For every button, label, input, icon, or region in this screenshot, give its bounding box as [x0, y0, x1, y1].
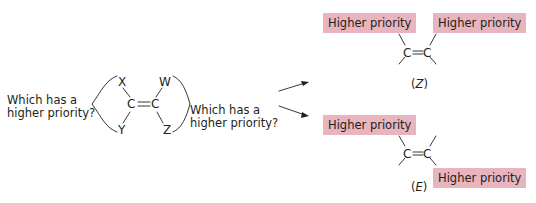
right-brace-icon [173, 76, 190, 132]
bond-z [157, 112, 163, 123]
left-brace-icon [92, 76, 117, 132]
diagram-strokes [0, 0, 536, 203]
bond-w [156, 88, 162, 97]
arrow-to-z-icon [279, 83, 305, 91]
bond-x [123, 88, 130, 97]
arrow-to-e-icon [279, 106, 305, 115]
bond-y [123, 112, 130, 123]
